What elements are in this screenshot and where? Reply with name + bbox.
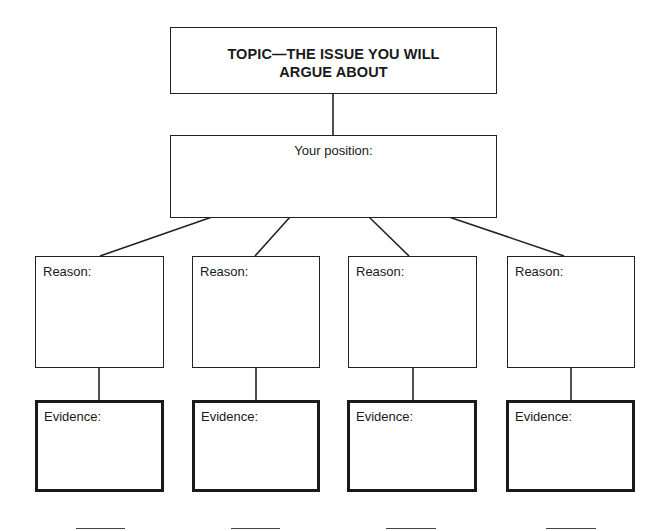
reason-box-2[interactable]: Reason: [192, 256, 320, 368]
blank-line-4[interactable] [546, 528, 596, 529]
reason-box-4[interactable]: Reason: [507, 256, 635, 368]
connector-position-reason-2 [255, 217, 290, 256]
evidence-box-1[interactable]: Evidence: [35, 400, 164, 492]
connector-position-reason-1 [100, 217, 212, 256]
reason-label: Reason: [356, 264, 404, 279]
blank-line-3[interactable] [386, 528, 436, 529]
evidence-label: Evidence: [515, 409, 572, 424]
reason-label: Reason: [515, 264, 563, 279]
connector-position-reason-4 [449, 217, 564, 256]
position-label: Your position: [171, 143, 496, 158]
topic-title: TOPIC—THE ISSUE YOU WILL ARGUE ABOUT [171, 45, 496, 81]
evidence-box-2[interactable]: Evidence: [192, 400, 320, 492]
reason-box-3[interactable]: Reason: [348, 256, 477, 368]
topic-box: TOPIC—THE ISSUE YOU WILL ARGUE ABOUT [170, 27, 497, 94]
evidence-label: Evidence: [201, 409, 258, 424]
evidence-box-4[interactable]: Evidence: [506, 400, 635, 492]
blank-line-2[interactable] [231, 528, 280, 529]
blank-line-1[interactable] [76, 528, 125, 529]
connector-position-reason-3 [369, 217, 409, 256]
evidence-box-3[interactable]: Evidence: [347, 400, 477, 492]
evidence-label: Evidence: [44, 409, 101, 424]
reason-label: Reason: [43, 264, 91, 279]
position-box[interactable]: Your position: [170, 135, 497, 218]
reason-box-1[interactable]: Reason: [35, 256, 164, 368]
reason-label: Reason: [200, 264, 248, 279]
evidence-label: Evidence: [356, 409, 413, 424]
